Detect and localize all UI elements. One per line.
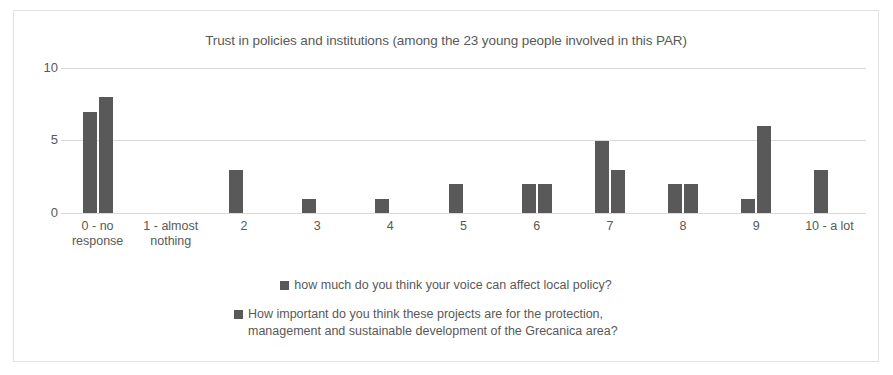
chart-frame: Trust in policies and institutions (amon… <box>13 10 879 362</box>
bar-groups <box>61 68 866 213</box>
bar-s2-c6 <box>538 184 552 213</box>
bar-s1-c2 <box>229 170 243 214</box>
x-tick-label-10: 10 - a lot <box>793 219 866 249</box>
chart-title: Trust in policies and institutions (amon… <box>14 33 878 48</box>
chart-legend: how much do you think your voice can aff… <box>14 277 878 352</box>
x-tick-label-1: 1 - almost nothing <box>134 219 207 249</box>
bar-group-8 <box>647 68 720 213</box>
x-tick-label-8: 8 <box>647 219 720 249</box>
bar-group-3 <box>281 68 354 213</box>
bar-s1-c4 <box>375 199 389 214</box>
y-tick-label-5: 5 <box>28 133 58 146</box>
bar-s1-c5 <box>449 184 463 213</box>
bar-s2-c0 <box>99 97 113 213</box>
bar-group-5 <box>427 68 500 213</box>
x-tick-label-5: 5 <box>427 219 500 249</box>
x-tick-label-7: 7 <box>573 219 646 249</box>
bar-s1-c3 <box>302 199 316 214</box>
bar-s1-c8 <box>668 184 682 213</box>
x-axis-line <box>61 213 866 214</box>
bar-s1-c0 <box>83 112 97 214</box>
bar-s1-c7 <box>595 141 609 214</box>
x-tick-label-3: 3 <box>281 219 354 249</box>
legend-swatch-icon-series2 <box>234 310 243 319</box>
bar-s1-c6 <box>522 184 536 213</box>
bar-group-7 <box>573 68 646 213</box>
bar-group-10 <box>793 68 866 213</box>
bar-s2-c9 <box>757 126 771 213</box>
bar-group-0 <box>61 68 134 213</box>
legend-swatch-icon-series1 <box>280 281 289 290</box>
x-tick-label-9: 9 <box>720 219 793 249</box>
x-axis-labels: 0 - no response 1 - almost nothing 2 3 4… <box>61 219 866 249</box>
bar-s2-c8 <box>684 184 698 213</box>
legend-row-2: How important do you think these project… <box>14 306 878 340</box>
bar-group-1 <box>134 68 207 213</box>
bar-group-2 <box>207 68 280 213</box>
x-tick-label-6: 6 <box>500 219 573 249</box>
x-tick-label-0: 0 - no response <box>61 219 134 249</box>
bar-group-6 <box>500 68 573 213</box>
x-tick-label-2: 2 <box>207 219 280 249</box>
y-tick-label-0: 0 <box>28 206 58 219</box>
legend-label-series1: how much do you think your voice can aff… <box>294 277 611 294</box>
y-axis: 10 5 0 <box>14 68 58 213</box>
bar-s1-c9 <box>741 199 755 214</box>
x-tick-label-4: 4 <box>354 219 427 249</box>
legend-row-1: how much do you think your voice can aff… <box>14 277 878 294</box>
bar-s1-c10 <box>814 170 828 214</box>
bar-group-9 <box>720 68 793 213</box>
bar-s2-c7 <box>611 170 625 214</box>
bar-group-4 <box>354 68 427 213</box>
y-tick-label-10: 10 <box>28 61 58 74</box>
legend-label-series2: How important do you think these project… <box>248 306 658 340</box>
